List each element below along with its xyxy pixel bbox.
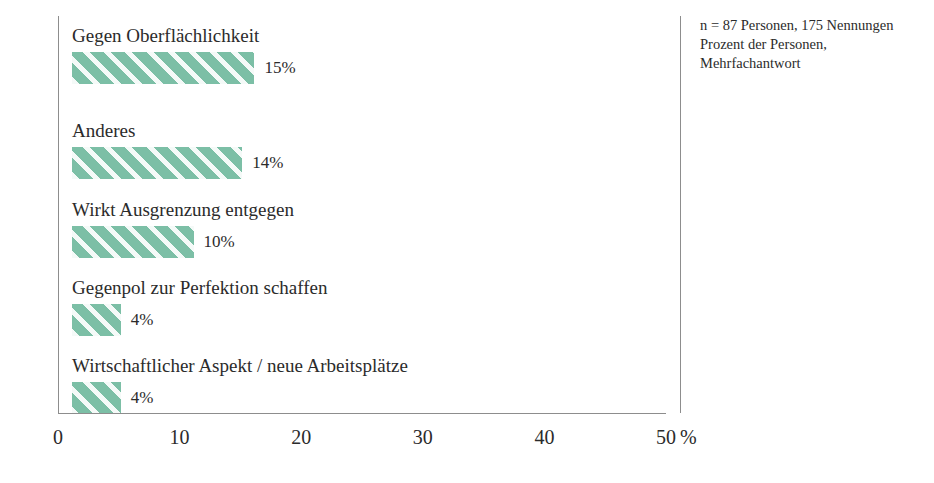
x-tick-label: 0 [53,424,63,450]
x-tick-label: 10 [170,424,190,450]
x-tick-label: 30 [413,424,433,450]
bar-value-label: 15% [264,57,295,79]
annotation-panel: n = 87 Personen, 175 Nennungen Prozent d… [700,16,934,73]
bar-row: 14% [72,147,283,179]
bar [72,304,121,336]
bar [72,226,194,258]
x-axis-unit-label: % [680,424,697,450]
bar-category-label: Wirkt Ausgrenzung entgegen [72,198,294,222]
bar-value-label: 4% [131,309,154,331]
annotation-line-3: Mehrfachantwort [700,54,934,73]
x-axis-line [58,413,666,414]
bar [72,52,254,84]
annotation-line-2: Prozent der Personen, [700,35,934,54]
x-tick-label: 50 [656,424,676,450]
bar-row: 4% [72,304,153,336]
bar-value-label: 10% [204,231,235,253]
bar [72,147,242,179]
annotation-panel-divider [680,16,681,413]
bar-row: 4% [72,382,153,414]
bar-value-label: 4% [131,387,154,409]
plot-area: Gegen Oberflächlichkeit15%Anderes14%Wirk… [58,16,666,413]
x-tick-label: 40 [534,424,554,450]
bar [72,382,121,414]
x-axis-tick-labels: 01020304050 [0,424,934,454]
bar-category-label: Wirtschaftlicher Aspekt / neue Arbeitspl… [72,354,408,378]
bar-category-label: Anderes [72,119,135,143]
annotation-line-1: n = 87 Personen, 175 Nennungen [700,16,934,35]
bar-category-label: Gegenpol zur Perfektion schaffen [72,276,328,300]
bar-row: 10% [72,226,235,258]
bar-category-label: Gegen Oberflächlichkeit [72,24,259,48]
bar-row: 15% [72,52,296,84]
bar-chart-figure: Gegen Oberflächlichkeit15%Anderes14%Wirk… [0,0,934,483]
bar-value-label: 14% [252,152,283,174]
x-tick-label: 20 [291,424,311,450]
